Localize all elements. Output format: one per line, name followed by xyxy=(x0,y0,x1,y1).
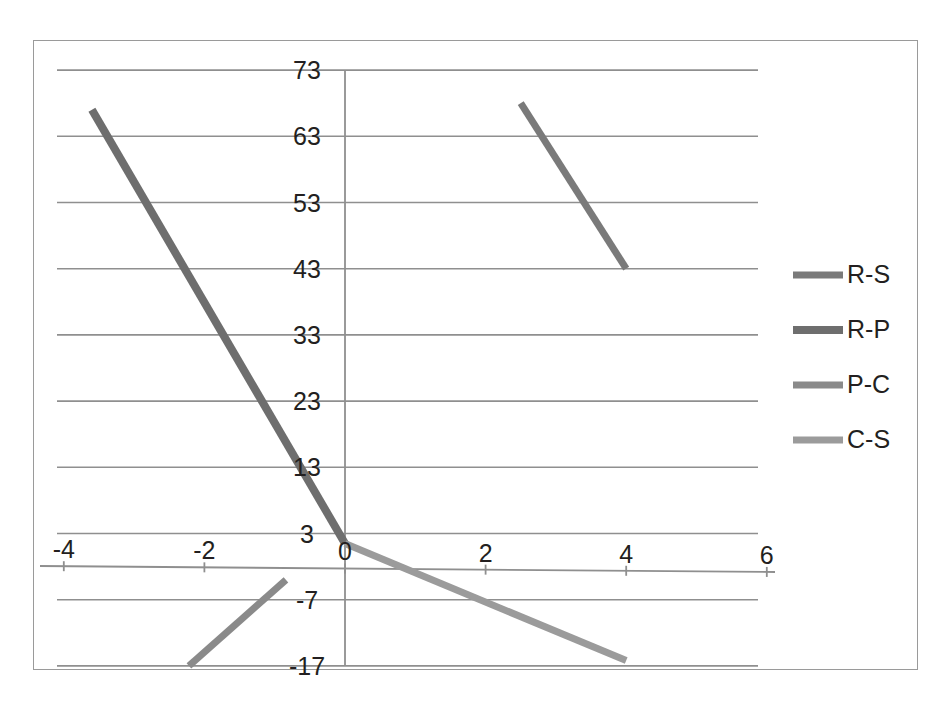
x-tick-label-neg4: -4 xyxy=(53,535,75,563)
plot-area: -17-7313233343536373 -4-20246 R-SR-PP-CC… xyxy=(0,0,948,709)
y-tick-label-23: 23 xyxy=(293,387,321,415)
x-tick-label-neg2: -2 xyxy=(193,536,215,564)
y-tick-label-73: 73 xyxy=(293,56,321,84)
chart-canvas: -17-7313233343536373 -4-20246 R-SR-PP-CC… xyxy=(0,0,948,709)
y-tick-label-53: 53 xyxy=(293,189,321,217)
y-tick-label-3: 3 xyxy=(300,520,314,548)
series-line-p-c xyxy=(189,580,286,666)
legend-label-r-p: R-P xyxy=(847,315,890,343)
x-tick-label-2: 2 xyxy=(479,539,493,567)
y-tick-label--17: -17 xyxy=(289,652,325,680)
data-series xyxy=(92,103,626,666)
x-tick-label-6: 6 xyxy=(760,541,774,569)
y-tick-label-33: 33 xyxy=(293,321,321,349)
legend-label-c-s: C-S xyxy=(847,425,890,453)
x-axis-tick-labels: -4-20246 xyxy=(53,535,774,569)
legend-label-r-s: R-S xyxy=(847,260,890,288)
y-tick-label-13: 13 xyxy=(293,453,321,481)
series-line-r-s xyxy=(521,103,626,269)
x-tick-label-4: 4 xyxy=(619,540,633,568)
legend-label-p-c: P-C xyxy=(847,370,890,398)
y-tick-label-63: 63 xyxy=(293,122,321,150)
x-tick-label-0: 0 xyxy=(338,537,352,565)
y-tick-label--7: -7 xyxy=(296,586,318,614)
y-tick-label-43: 43 xyxy=(293,255,321,283)
y-axis-tick-labels: -17-7313233343536373 xyxy=(289,56,325,680)
axes xyxy=(40,70,775,666)
gridlines xyxy=(57,70,758,666)
chart-legend: R-SR-PP-CC-S xyxy=(793,260,890,453)
chart-root: -17-7313233343536373 -4-20246 R-SR-PP-CC… xyxy=(0,0,948,709)
